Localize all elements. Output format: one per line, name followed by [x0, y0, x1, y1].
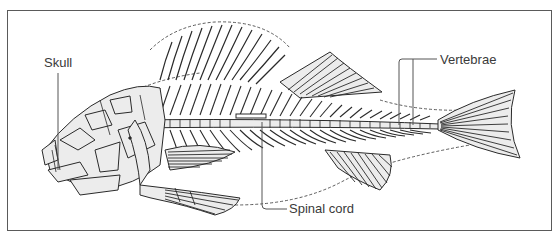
- vertebrae-leader: [399, 59, 437, 125]
- dorsal-fin-spiny: [160, 25, 285, 84]
- pelvic-fin: [140, 185, 240, 215]
- label-spinal-cord: Spinal cord: [289, 202, 354, 215]
- anal-fin: [325, 150, 392, 190]
- fish-skeleton-illustration: [0, 0, 558, 238]
- vertebral-column: [130, 114, 440, 129]
- skull-bones: [42, 86, 165, 195]
- label-skull: Skull: [44, 56, 72, 69]
- dorsal-fin-soft: [280, 52, 382, 98]
- caudal-fin: [438, 90, 520, 158]
- spinal-cord-segment: [236, 114, 266, 118]
- pectoral-fin: [165, 145, 235, 170]
- label-vertebrae: Vertebrae: [440, 53, 496, 66]
